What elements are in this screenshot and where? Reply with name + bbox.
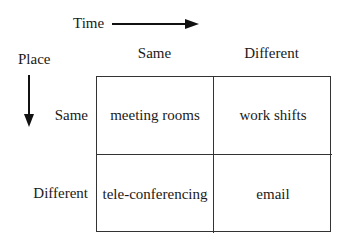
cell-different-time-different-place: email bbox=[214, 155, 332, 233]
column-header-different-time: Different bbox=[213, 45, 330, 61]
place-axis-label: Place bbox=[18, 51, 50, 67]
time-place-matrix: meeting rooms work shifts tele-conferenc… bbox=[96, 76, 331, 232]
row-header-different-place: Different bbox=[18, 185, 88, 201]
cell-same-time-same-place: meeting rooms bbox=[97, 77, 214, 155]
time-arrow-icon bbox=[111, 18, 201, 30]
column-header-same-time: Same bbox=[96, 45, 213, 61]
row-header-same-place: Same bbox=[18, 107, 88, 123]
cell-different-time-same-place: work shifts bbox=[214, 77, 332, 155]
time-axis-label: Time bbox=[73, 15, 104, 31]
cell-same-time-different-place: tele-conferencing bbox=[97, 155, 214, 233]
